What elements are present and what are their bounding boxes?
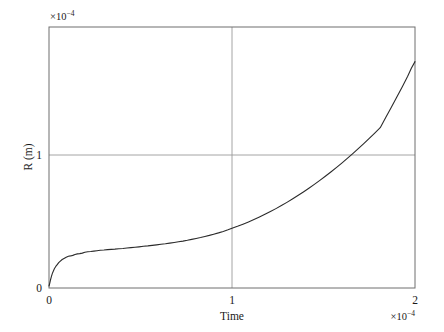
chart-figure: 0 1 0 1 2 Time R (m) ×10−4 ×10−4 bbox=[0, 0, 444, 332]
y-axis-title: R (m) bbox=[22, 143, 35, 170]
x-exp-base: ×10 bbox=[391, 311, 407, 322]
y-tick-label-1: 1 bbox=[36, 149, 42, 161]
y-exp-base: ×10 bbox=[50, 11, 66, 22]
figure-background bbox=[0, 0, 444, 332]
y-exp-power: −4 bbox=[66, 9, 74, 18]
y-tick-label-0: 0 bbox=[36, 282, 42, 294]
x-tick-label-0: 0 bbox=[46, 294, 52, 306]
line-chart: 0 1 0 1 2 Time R (m) ×10−4 ×10−4 bbox=[0, 0, 444, 332]
x-tick-label-1: 1 bbox=[229, 294, 235, 306]
x-tick-label-2: 2 bbox=[412, 294, 418, 306]
x-axis-title: Time bbox=[220, 310, 244, 322]
x-exp-power: −4 bbox=[407, 309, 415, 318]
